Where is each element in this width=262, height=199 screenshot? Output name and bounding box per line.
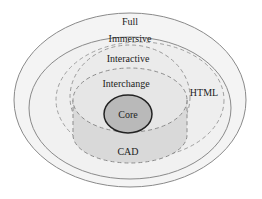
profile-venn-diagram: Full Immersive HTML Interactive Intercha… [0, 0, 262, 199]
label-core: Core [118, 109, 138, 120]
label-immersive: Immersive [109, 33, 152, 44]
label-cad: CAD [117, 146, 138, 157]
label-interchange: Interchange [102, 78, 150, 89]
label-full: Full [122, 16, 138, 27]
label-html: HTML [190, 87, 218, 98]
label-interactive: Interactive [107, 53, 150, 64]
